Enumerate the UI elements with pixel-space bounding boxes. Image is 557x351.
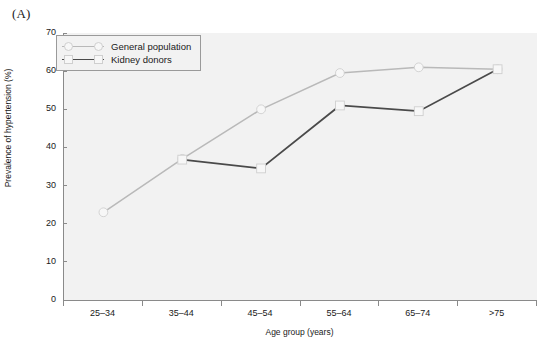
x-axis-tick-mark bbox=[300, 301, 301, 306]
legend: General population Kidney donors bbox=[56, 35, 201, 71]
series-kidney-donors bbox=[178, 65, 502, 173]
series-line bbox=[182, 69, 497, 168]
y-axis-tick-label: 40 bbox=[34, 141, 56, 152]
square-marker-icon bbox=[257, 164, 266, 173]
x-axis-tick-label: 55–64 bbox=[300, 308, 379, 318]
x-axis-tick-mark bbox=[63, 301, 64, 306]
circle-marker-icon bbox=[99, 208, 108, 217]
y-axis-tick-mark bbox=[63, 185, 67, 186]
y-axis-tick-mark bbox=[63, 261, 67, 262]
legend-item-kidney-donors: Kidney donors bbox=[62, 53, 191, 66]
y-axis-tick-label: 0 bbox=[34, 294, 56, 305]
legend-label-kidney-donors: Kidney donors bbox=[111, 54, 172, 65]
y-axis-tick-mark bbox=[63, 223, 67, 224]
y-axis-title: Prevalence of hypertension (%) bbox=[3, 3, 13, 253]
figure-panel: (A) 010203040506070 Prevalence of hypert… bbox=[0, 0, 557, 351]
x-axis-title: Age group (years) bbox=[63, 327, 536, 337]
x-axis-tick-mark bbox=[536, 301, 537, 306]
x-axis-tick-label: 35–44 bbox=[142, 308, 221, 318]
series-general-population bbox=[99, 63, 502, 217]
square-marker-icon bbox=[64, 55, 73, 64]
series-line bbox=[103, 67, 497, 212]
y-axis-tick-mark bbox=[63, 147, 67, 148]
square-marker-icon bbox=[178, 155, 187, 164]
y-axis-tick-label: 20 bbox=[34, 218, 56, 229]
legend-label-general-population: General population bbox=[111, 41, 191, 52]
y-axis-tick-label: 60 bbox=[34, 65, 56, 76]
y-axis-tick-mark bbox=[63, 33, 67, 34]
panel-letter: (A) bbox=[12, 6, 31, 22]
square-marker-icon bbox=[336, 101, 345, 110]
y-axis-tick-label: 50 bbox=[34, 103, 56, 114]
circle-marker-icon bbox=[64, 42, 73, 51]
legend-key-general-population bbox=[62, 40, 104, 53]
series-plot bbox=[64, 33, 537, 300]
x-axis-tick-mark bbox=[142, 301, 143, 306]
x-axis-tick-mark bbox=[378, 301, 379, 306]
square-marker-icon bbox=[493, 65, 502, 74]
x-axis-tick-label: 65–74 bbox=[378, 308, 457, 318]
y-axis-tick-label: 30 bbox=[34, 180, 56, 191]
y-axis-tick-label: 10 bbox=[34, 256, 56, 267]
legend-key-kidney-donors bbox=[62, 53, 104, 66]
circle-marker-icon bbox=[414, 63, 423, 72]
x-axis-tick-mark bbox=[221, 301, 222, 306]
square-marker-icon bbox=[94, 55, 103, 64]
y-axis-tick-label: 70 bbox=[34, 27, 56, 38]
x-axis-tick-label: >75 bbox=[457, 308, 536, 318]
y-axis-tick-mark bbox=[63, 109, 67, 110]
x-axis-tick-mark bbox=[457, 301, 458, 306]
circle-marker-icon bbox=[336, 69, 345, 78]
x-axis-tick-label: 25–34 bbox=[63, 308, 142, 318]
x-axis-tick-label: 45–54 bbox=[221, 308, 300, 318]
circle-marker-icon bbox=[257, 105, 266, 114]
square-marker-icon bbox=[414, 107, 423, 116]
circle-marker-icon bbox=[94, 42, 103, 51]
legend-item-general-population: General population bbox=[62, 40, 191, 53]
plot-area bbox=[63, 33, 537, 301]
